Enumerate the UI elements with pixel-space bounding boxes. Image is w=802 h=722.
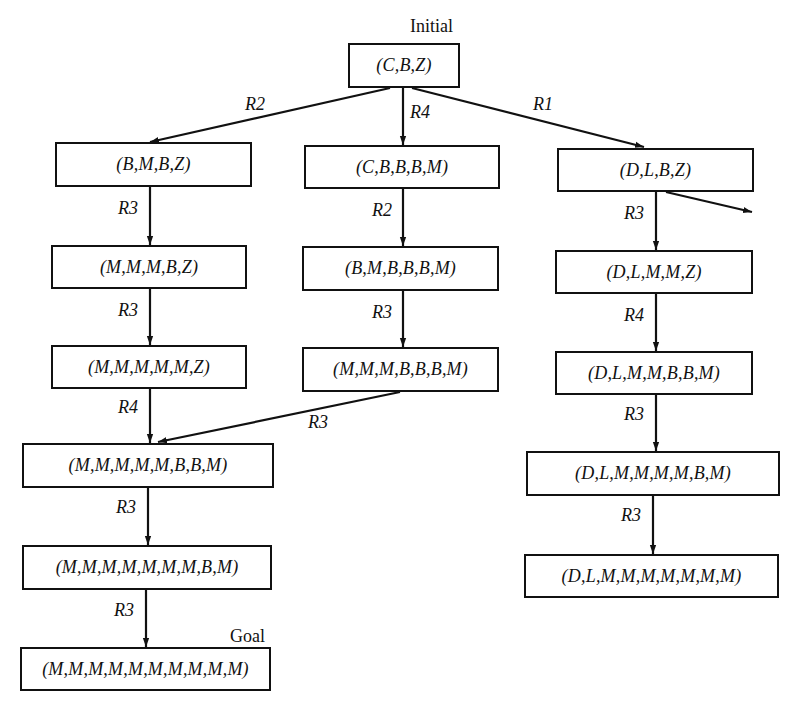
rule-label: R2 bbox=[245, 94, 265, 115]
state-node: (B,M,B,Z) bbox=[55, 142, 252, 187]
state-node: (M,M,M,B,Z) bbox=[51, 245, 247, 289]
edge-arrow bbox=[158, 392, 400, 442]
rule-label: R3 bbox=[116, 497, 136, 518]
state-node: (C,B,Z) bbox=[348, 43, 460, 88]
edge-arrow bbox=[666, 192, 752, 212]
rule-label: R3 bbox=[624, 404, 644, 425]
rule-label: R3 bbox=[621, 505, 641, 526]
state-label: (C,B,B,B,M) bbox=[356, 157, 448, 178]
rule-label: R3 bbox=[114, 600, 134, 621]
rule-label: R4 bbox=[118, 397, 138, 418]
state-label: (M,M,M,M,M,M,M,M,M,M) bbox=[42, 659, 249, 680]
edge-arrow bbox=[150, 88, 390, 142]
state-label: (M,M,M,M,M,Z) bbox=[88, 357, 210, 378]
edge-arrow bbox=[412, 88, 644, 147]
state-label: (M,M,M,M,M,B,B,M) bbox=[69, 455, 228, 476]
state-label: (D,L,M,M,Z) bbox=[606, 262, 701, 283]
rule-label: R3 bbox=[372, 302, 392, 323]
rule-label: R1 bbox=[533, 94, 553, 115]
state-label: (D,L,M,M,M,M,M,M,M) bbox=[562, 566, 742, 587]
state-label: (D,L,M,M,M,M,B,M) bbox=[575, 463, 731, 484]
state-label: (M,M,M,M,M,M,M,B,M) bbox=[56, 557, 239, 578]
state-node: (M,M,M,B,B,B,M) bbox=[302, 347, 499, 392]
state-label: (M,M,M,B,B,B,M) bbox=[333, 359, 468, 380]
state-node: (M,M,M,M,M,Z) bbox=[51, 345, 247, 389]
initial-tag: Initial bbox=[410, 16, 453, 37]
rule-label: R3 bbox=[624, 203, 644, 224]
state-node: (D,L,M,M,M,M,M,M,M) bbox=[524, 554, 779, 598]
state-node: (M,M,M,M,M,M,M,B,M) bbox=[22, 545, 272, 590]
rule-label: R3 bbox=[308, 412, 328, 433]
state-label: (B,M,B,B,B,M) bbox=[345, 258, 456, 279]
state-node: (D,L,M,M,Z) bbox=[555, 250, 753, 294]
rule-label: R3 bbox=[118, 198, 138, 219]
state-label: (C,B,Z) bbox=[376, 55, 431, 76]
state-node: (M,M,M,M,M,M,M,M,M,M) bbox=[20, 647, 271, 691]
goal-tag: Goal bbox=[230, 626, 265, 647]
rule-label: R3 bbox=[118, 300, 138, 321]
state-node: (C,B,B,B,M) bbox=[304, 145, 500, 189]
state-label: (M,M,M,B,Z) bbox=[100, 257, 198, 278]
state-node: (D,L,M,M,M,M,B,M) bbox=[526, 451, 780, 496]
rule-label: R4 bbox=[624, 305, 644, 326]
state-node: (B,M,B,B,B,M) bbox=[302, 246, 499, 291]
rule-label: R4 bbox=[410, 102, 430, 123]
state-label: (B,M,B,Z) bbox=[116, 154, 190, 175]
state-label: (D,L,M,M,B,B,M) bbox=[588, 363, 720, 384]
state-node: (D,L,B,Z) bbox=[557, 148, 754, 192]
state-label: (D,L,B,Z) bbox=[620, 160, 691, 181]
state-node: (M,M,M,M,M,B,B,M) bbox=[22, 443, 274, 488]
state-node: (D,L,M,M,B,B,M) bbox=[555, 351, 753, 395]
rule-label: R2 bbox=[372, 200, 392, 221]
